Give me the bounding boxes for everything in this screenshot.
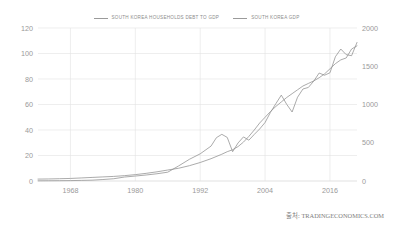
left-axis-tick-label: 60 — [25, 100, 33, 109]
left-axis-tick-label: 0 — [29, 177, 33, 186]
x-axis-ticks: 19681980199220042016 — [62, 186, 338, 195]
left-axis-ticks: 020406080100120 — [21, 24, 33, 186]
series-line — [38, 46, 357, 179]
right-axis-tick-label: 500 — [362, 138, 374, 147]
left-axis-tick-label: 120 — [21, 24, 33, 33]
x-axis-tick-label: 1980 — [127, 186, 143, 195]
chart-container: SOUTH KOREA HOUSEHOLDS DEBT TO GDP SOUTH… — [0, 0, 393, 228]
right-axis-ticks: 0500100015002000 — [362, 24, 378, 186]
right-axis-tick-label: 1500 — [362, 62, 378, 71]
left-axis-tick-label: 40 — [25, 126, 33, 135]
x-axis-tick-label: 1992 — [192, 186, 208, 195]
x-axis-tick-label: 2016 — [322, 186, 338, 195]
x-axis-tick-label: 1968 — [62, 186, 78, 195]
right-axis-tick-label: 1000 — [362, 100, 378, 109]
left-axis-tick-label: 100 — [21, 49, 33, 58]
series-lines — [38, 42, 357, 180]
right-axis-tick-label: 2000 — [362, 24, 378, 33]
left-axis-tick-label: 80 — [25, 75, 33, 84]
series-line — [38, 42, 357, 180]
x-axis-tick-label: 2004 — [257, 186, 273, 195]
gridlines — [38, 28, 357, 181]
chart-plot-area: 020406080100120 0500100015002000 1968198… — [0, 0, 393, 228]
right-axis-tick-label: 0 — [362, 177, 366, 186]
source-attribution: 출처: TRADINGECONOMICS.COM — [286, 211, 384, 220]
left-axis-tick-label: 20 — [25, 151, 33, 160]
